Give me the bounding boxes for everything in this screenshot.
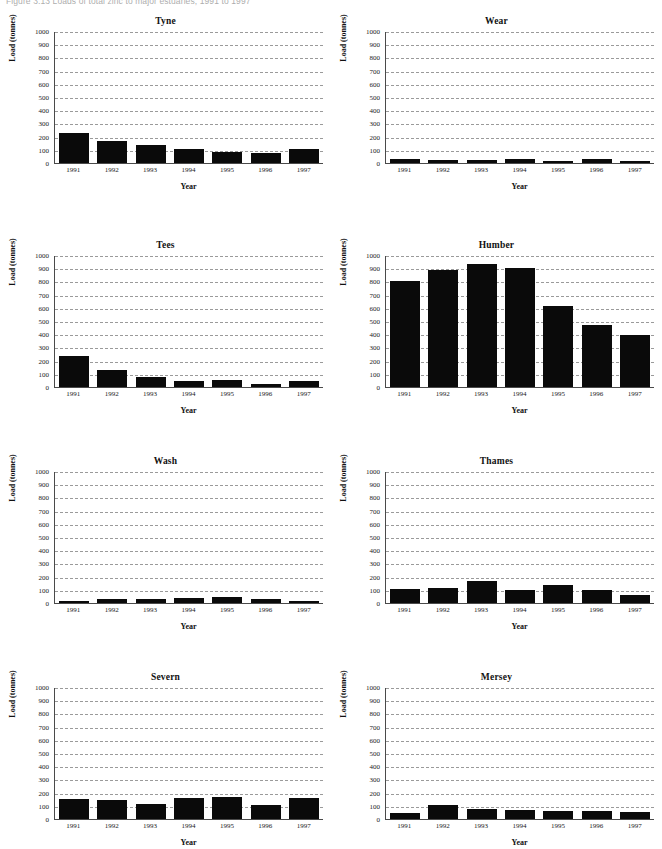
bar-series xyxy=(55,256,323,387)
plot-area-wrapper: Load (tonnes)010020030040050060070080090… xyxy=(331,256,662,406)
x-axis-tick-label: 1991 xyxy=(389,606,419,614)
bar-1993 xyxy=(136,377,166,387)
bar-slot xyxy=(620,688,650,819)
x-axis-tick-label: 1991 xyxy=(58,390,88,398)
y-axis-tick-label: 1000 xyxy=(35,252,49,260)
y-axis-tick-label: 0 xyxy=(377,600,381,608)
bar-1996 xyxy=(251,153,281,163)
x-axis-tick-label: 1994 xyxy=(173,822,203,830)
bar-1992 xyxy=(428,270,458,387)
chart-panel-mersey: MerseyLoad (tonnes)010020030040050060070… xyxy=(331,664,662,849)
bar-series xyxy=(386,688,654,819)
chart-panel-tyne: TyneLoad (tonnes)01002003004005006007008… xyxy=(0,8,331,232)
x-axis-tick-label: 1995 xyxy=(212,166,242,174)
bar-slot xyxy=(543,688,573,819)
y-axis-tick-label: 600 xyxy=(370,81,381,89)
x-axis-tick-label: 1997 xyxy=(620,606,650,614)
bar-1996 xyxy=(582,590,612,603)
y-axis-tick-label: 200 xyxy=(370,790,381,798)
bar-1995 xyxy=(543,811,573,819)
bar-slot xyxy=(467,472,497,603)
x-axis-tick-label: 1991 xyxy=(58,606,88,614)
x-axis-tick-label: 1995 xyxy=(543,606,573,614)
x-axis-tick-label: 1991 xyxy=(58,166,88,174)
y-axis-tick-label: 900 xyxy=(370,41,381,49)
x-axis-tick-label: 1992 xyxy=(97,822,127,830)
bar-slot xyxy=(97,472,127,603)
x-axis-tick-label: 1996 xyxy=(250,390,280,398)
y-axis-tick-label: 900 xyxy=(39,41,50,49)
x-axis-tick-label: 1997 xyxy=(620,390,650,398)
y-axis-ticks: 01002003004005006007008009001000 xyxy=(353,32,383,164)
x-axis-ticks: 1991199219931994199519961997 xyxy=(385,606,654,614)
plot-area-wrapper: Load (tonnes)010020030040050060070080090… xyxy=(0,32,331,182)
bar-slot xyxy=(174,472,204,603)
bar-slot xyxy=(543,472,573,603)
x-axis-tick-label: 1994 xyxy=(504,606,534,614)
bar-slot xyxy=(620,32,650,163)
x-axis-ticks: 1991199219931994199519961997 xyxy=(54,822,323,830)
x-axis-tick-label: 1991 xyxy=(58,822,88,830)
y-axis-tick-label: 1000 xyxy=(366,252,380,260)
plot-area xyxy=(385,32,654,164)
y-axis-tick-label: 200 xyxy=(370,574,381,582)
x-axis-ticks: 1991199219931994199519961997 xyxy=(54,390,323,398)
x-axis-tick-label: 1993 xyxy=(135,390,165,398)
y-axis-tick-label: 100 xyxy=(39,371,50,379)
x-axis-tick-label: 1993 xyxy=(466,166,496,174)
bar-1994 xyxy=(174,149,204,163)
x-axis-tick-label: 1997 xyxy=(620,166,650,174)
bar-slot xyxy=(212,32,242,163)
bar-1991 xyxy=(59,133,89,163)
plot-area xyxy=(54,32,323,164)
plot-area-wrapper: Load (tonnes)010020030040050060070080090… xyxy=(0,688,331,838)
plot-area-wrapper: Load (tonnes)010020030040050060070080090… xyxy=(331,472,662,622)
bar-1996 xyxy=(582,159,612,163)
y-axis-tick-label: 1000 xyxy=(35,468,49,476)
x-axis-tick-label: 1997 xyxy=(289,166,319,174)
chart-panel-tees: TeesLoad (tonnes)01002003004005006007008… xyxy=(0,232,331,448)
chart-panel-grid: TyneLoad (tonnes)01002003004005006007008… xyxy=(0,8,662,849)
x-axis-tick-label: 1992 xyxy=(97,606,127,614)
bar-1994 xyxy=(174,798,204,819)
y-axis-tick-label: 300 xyxy=(370,120,381,128)
bar-1997 xyxy=(289,601,319,603)
x-axis-ticks: 1991199219931994199519961997 xyxy=(54,166,323,174)
bar-slot xyxy=(289,688,319,819)
plot-area-wrapper: Load (tonnes)010020030040050060070080090… xyxy=(331,32,662,182)
bar-slot xyxy=(428,688,458,819)
y-axis-ticks: 01002003004005006007008009001000 xyxy=(353,472,383,604)
y-axis-tick-label: 500 xyxy=(39,534,50,542)
y-axis-tick-label: 0 xyxy=(46,384,50,392)
bar-slot xyxy=(174,32,204,163)
bar-slot xyxy=(289,472,319,603)
bar-1996 xyxy=(251,384,281,387)
chart-panel-humber: HumberLoad (tonnes)010020030040050060070… xyxy=(331,232,662,448)
plot-area-wrapper: Load (tonnes)010020030040050060070080090… xyxy=(0,256,331,406)
bar-1993 xyxy=(136,599,166,603)
bar-slot xyxy=(97,32,127,163)
x-axis-tick-label: 1997 xyxy=(289,606,319,614)
y-axis-tick-label: 400 xyxy=(370,763,381,771)
x-axis-label: Year xyxy=(385,838,654,847)
x-axis-tick-label: 1994 xyxy=(173,390,203,398)
bar-1997 xyxy=(620,335,650,387)
y-axis-tick-label: 500 xyxy=(370,318,381,326)
bar-slot xyxy=(467,256,497,387)
x-axis-ticks: 1991199219931994199519961997 xyxy=(385,166,654,174)
y-axis-tick-label: 1000 xyxy=(366,468,380,476)
bar-1997 xyxy=(620,595,650,603)
x-axis-tick-label: 1996 xyxy=(581,166,611,174)
y-axis-tick-label: 400 xyxy=(39,107,50,115)
bar-slot xyxy=(289,32,319,163)
y-axis-tick-label: 1000 xyxy=(35,28,49,36)
bar-slot xyxy=(620,472,650,603)
chart-title: Wear xyxy=(331,16,662,26)
bar-1995 xyxy=(212,597,242,603)
bar-slot xyxy=(59,256,89,387)
x-axis-tick-label: 1992 xyxy=(428,166,458,174)
bar-slot xyxy=(136,256,166,387)
x-axis-tick-label: 1995 xyxy=(212,822,242,830)
bar-slot xyxy=(59,472,89,603)
y-axis-tick-label: 800 xyxy=(370,710,381,718)
